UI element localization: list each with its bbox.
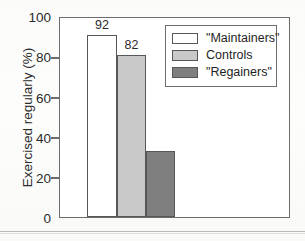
page-separator-rule <box>0 231 305 232</box>
y-axis-tick-80 <box>51 57 59 59</box>
legend-label-maintainers: "Maintainers" <box>206 32 280 45</box>
bar-value-controls: 82 <box>117 39 146 52</box>
legend-label-regainers: "Regainers" <box>206 66 272 79</box>
legend-item-regainers[interactable]: "Regainers" <box>172 65 270 80</box>
y-axis-tick-label-100: 100 <box>5 11 51 25</box>
legend-swatch-regainers <box>172 67 198 78</box>
y-axis-tick-label-0: 0 <box>5 212 51 226</box>
y-axis-tick-20 <box>51 177 59 179</box>
bar-regainers[interactable] <box>146 151 175 217</box>
y-axis-tick-60 <box>51 97 59 99</box>
legend-swatch-maintainers <box>172 33 198 44</box>
page-separator-rule-shadow <box>0 233 305 234</box>
y-axis-title: Exercised regularly (%) <box>20 28 35 208</box>
bar-controls[interactable] <box>117 55 146 217</box>
legend-item-maintainers[interactable]: "Maintainers" <box>172 31 270 46</box>
bar-value-maintainers: 92 <box>87 19 117 32</box>
legend-item-controls[interactable]: Controls <box>172 48 270 63</box>
chart-page: 100 80 60 40 20 0 Exercised regularly (%… <box>0 0 305 241</box>
bar-maintainers[interactable] <box>87 35 117 217</box>
legend-label-controls: Controls <box>206 49 253 62</box>
y-axis-tick-40 <box>51 137 59 139</box>
legend: "Maintainers" Controls "Regainers" <box>165 25 277 87</box>
plot-area: 92 82 "Maintainers" Controls "Regainers" <box>59 17 290 218</box>
legend-swatch-controls <box>172 50 198 61</box>
